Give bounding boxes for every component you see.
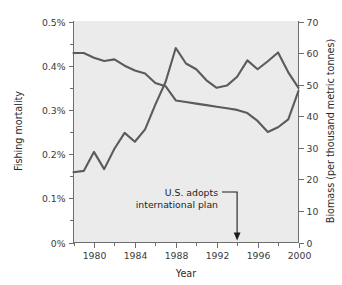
x-tick-label: 1996 [247,250,271,261]
left-tick-label: 0.3% [42,105,66,116]
x-tick-label: 1984 [124,250,148,261]
bottom-axis-tick-labels: 198019841988199219962000 [83,250,312,261]
left-tick-label: 0% [51,238,66,249]
right-tick-label: 60 [307,48,319,59]
right-tick-label: 20 [307,174,319,185]
right-tick-label: 40 [307,111,319,122]
right-tick-label: 10 [307,206,319,217]
x-tick-label: 2000 [288,250,312,261]
x-tick-label: 1988 [165,250,189,261]
chart-figure: 0%0.1%0.2%0.3%0.4%0.5% 010203040506070 1… [0,0,342,285]
fishing-mortality-biomass-chart: 0%0.1%0.2%0.3%0.4%0.5% 010203040506070 1… [0,0,342,285]
left-tick-label: 0.4% [42,61,66,72]
right-tick-label: 70 [307,17,319,28]
right-tick-label: 0 [307,238,313,249]
left-axis-ticks [69,23,74,244]
bottom-axis-ticks [75,243,300,248]
annotation-line-1: U.S. adopts [165,187,218,198]
right-tick-label: 50 [307,80,319,91]
annotation-line-2: international plan [136,199,218,210]
left-tick-label: 0.5% [42,17,66,28]
right-axis-tick-labels: 010203040506070 [307,17,319,249]
left-tick-label: 0.1% [42,193,66,204]
y2-axis-title: Biomass (per thousand metric tonnes) [325,39,336,223]
y-axis-title: Fishing mortality [13,91,24,171]
right-tick-label: 30 [307,143,319,154]
right-axis-ticks [299,23,304,244]
x-axis-title: Year [175,268,196,279]
x-tick-label: 1980 [83,250,107,261]
x-tick-label: 1992 [206,250,230,261]
left-tick-label: 0.2% [42,149,66,160]
left-axis-tick-labels: 0%0.1%0.2%0.3%0.4%0.5% [42,17,66,249]
